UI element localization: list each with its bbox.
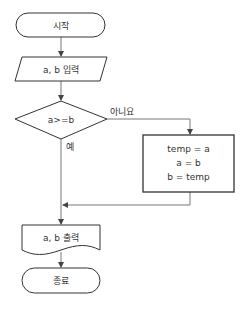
decision-diamond: a>=b — [15, 101, 107, 139]
output-document: a, b 출력 — [22, 225, 100, 255]
start-label: 시작 — [53, 21, 69, 31]
output-label: a, b 출력 — [43, 232, 79, 243]
input-parallelogram: a, b 입력 — [15, 57, 107, 81]
start-terminal: 시작 — [16, 13, 105, 37]
end-terminal: 종료 — [22, 268, 100, 293]
input-label: a, b 입력 — [43, 64, 79, 75]
swap-line-1: temp = a — [167, 144, 209, 154]
decision-label: a>=b — [48, 115, 75, 125]
yes-branch-label: 예 — [66, 142, 74, 152]
swap-process-box: temp = a a = b b = temp — [143, 135, 234, 192]
connector-swap-return — [63, 192, 190, 205]
connector-no-branch — [107, 119, 190, 134]
end-label: 종료 — [53, 276, 69, 286]
swap-line-2: a = b — [176, 158, 201, 168]
swap-line-3: b = temp — [167, 172, 210, 182]
no-branch-label: 아니요 — [110, 107, 134, 117]
flowchart-canvas: 시작 a, b 입력 a>=b 아니요 예 temp = a a = b b =… — [0, 0, 247, 309]
